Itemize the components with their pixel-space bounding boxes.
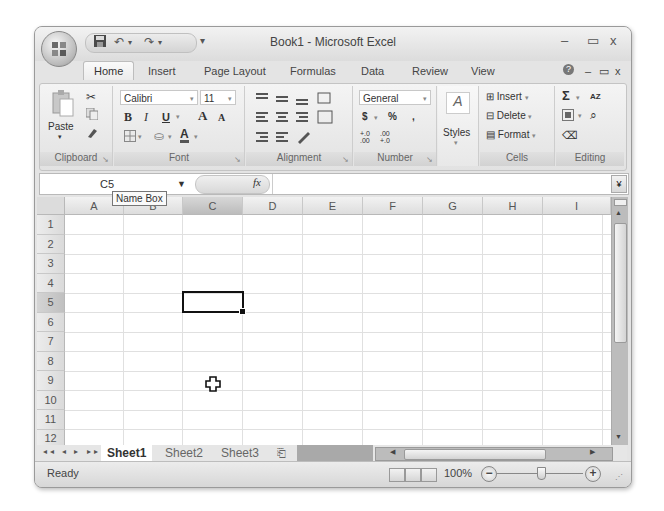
row-header-6[interactable]: 6 [37, 313, 65, 333]
borders-icon[interactable] [124, 130, 136, 146]
expand-formula-bar-button[interactable]: ¥ [611, 175, 627, 193]
fill-button[interactable] [562, 109, 574, 125]
row-header-3[interactable]: 3 [37, 254, 65, 274]
group-styles[interactable]: A Styles ▾ [438, 86, 479, 166]
number-format-select[interactable]: General▾ [359, 90, 431, 105]
row-header-9[interactable]: 9 [37, 371, 65, 391]
close-button[interactable]: x [610, 33, 617, 48]
currency-dropdown-icon[interactable]: ▾ [374, 111, 378, 125]
scroll-up-icon[interactable]: ▲ [615, 209, 622, 216]
select-all-button[interactable] [37, 197, 65, 215]
workbook-close-button[interactable]: x [615, 65, 621, 77]
tab-data[interactable]: Data [361, 65, 384, 77]
format-cells-button[interactable]: ▤ Format ▾ [486, 128, 536, 143]
normal-view-button[interactable] [389, 468, 405, 482]
delete-cells-button[interactable]: ⊟ Delete ▾ [486, 109, 532, 124]
vertical-scroll-thumb[interactable] [614, 223, 627, 343]
column-header-c[interactable]: C [183, 197, 243, 215]
shrink-font-button[interactable]: A [218, 111, 225, 125]
scroll-left-icon[interactable]: ◀ [390, 448, 395, 456]
maximize-button[interactable]: ▭ [587, 33, 599, 48]
format-painter-icon[interactable] [86, 126, 98, 142]
sheet-tab-sheet2[interactable]: Sheet2 [165, 445, 203, 461]
row-header-1[interactable]: 1 [37, 215, 65, 235]
zoom-out-button[interactable]: − [481, 466, 497, 482]
workbook-minimize-button[interactable]: – [585, 65, 591, 77]
resize-grip-icon[interactable]: ⋰ [615, 472, 623, 481]
insert-sheet-icon[interactable]: ⎗ [277, 445, 286, 461]
increase-decimal-button[interactable]: +.0 .00 [360, 130, 376, 144]
tab-home[interactable]: Home [83, 61, 134, 80]
fill-dropdown-icon[interactable]: ▾ [578, 109, 582, 123]
font-color-dropdown-icon[interactable]: ▾ [194, 130, 198, 144]
row-header-10[interactable]: 10 [37, 391, 65, 411]
split-box[interactable] [614, 199, 627, 206]
minimize-button[interactable]: – [561, 33, 568, 48]
office-button[interactable] [41, 31, 77, 67]
worksheet-grid[interactable]: A B C D E F G H I 1 2 3 4 5 6 7 8 9 10 1… [37, 197, 611, 445]
vertical-scrollbar[interactable]: ▲ ▼ [611, 197, 628, 445]
horizontal-scroll-thumb[interactable] [404, 449, 546, 460]
cut-icon[interactable]: ✂ [86, 90, 96, 104]
autosum-dropdown-icon[interactable]: ▾ [576, 91, 580, 105]
zoom-slider-thumb[interactable] [537, 467, 546, 480]
formula-input[interactable] [272, 174, 613, 194]
insert-cells-button[interactable]: ⊞ Insert ▾ [486, 90, 529, 105]
italic-button[interactable]: I [144, 110, 148, 124]
row-header-2[interactable]: 2 [37, 235, 65, 255]
workbook-restore-button[interactable]: ▭ [599, 65, 609, 78]
alignment-icons[interactable] [252, 90, 350, 146]
sheet-tab-sheet1[interactable]: Sheet1 [101, 445, 152, 461]
column-header-f[interactable]: F [363, 197, 423, 215]
currency-button[interactable]: $ [362, 110, 368, 124]
dialog-launcher-icon[interactable]: ↘ [342, 155, 349, 164]
sort-filter-button[interactable]: AZ [590, 90, 601, 104]
underline-button[interactable]: U [162, 110, 170, 124]
column-header-g[interactable]: G [423, 197, 483, 215]
sheet-navigation-buttons[interactable]: ◂◂ ◂ ▸ ▸▸ [43, 447, 101, 456]
row-header-8[interactable]: 8 [37, 352, 65, 372]
dialog-launcher-icon[interactable]: ↘ [102, 155, 109, 164]
paste-button[interactable]: Paste ▾ [48, 90, 78, 146]
bold-button[interactable]: B [124, 110, 132, 124]
font-name-select[interactable]: Calibri▾ [120, 90, 198, 105]
column-header-h[interactable]: H [483, 197, 543, 215]
page-break-preview-button[interactable] [421, 468, 437, 482]
zoom-in-button[interactable]: + [585, 466, 601, 482]
column-header-d[interactable]: D [243, 197, 303, 215]
autosum-button[interactable]: Σ [562, 89, 570, 103]
tab-page-layout[interactable]: Page Layout [204, 65, 266, 77]
tab-review[interactable]: Review [412, 65, 448, 77]
column-header-e[interactable]: E [303, 197, 363, 215]
sheet-tab-sheet3[interactable]: Sheet3 [221, 445, 259, 461]
help-icon[interactable]: ? [563, 64, 574, 75]
underline-dropdown-icon[interactable]: ▾ [176, 110, 180, 124]
selected-cell-c5[interactable] [182, 291, 244, 313]
comma-button[interactable]: , [412, 110, 415, 124]
insert-function-button[interactable]: fx [253, 176, 261, 188]
fill-color-icon[interactable]: ⛀ [154, 129, 164, 143]
name-box-dropdown-icon[interactable]: ▼ [177, 174, 186, 194]
font-size-select[interactable]: 11▾ [200, 90, 236, 105]
tab-view[interactable]: View [471, 65, 495, 77]
scroll-right-icon[interactable]: ▶ [590, 448, 595, 456]
zoom-level[interactable]: 100% [444, 467, 472, 479]
find-select-button[interactable]: ⌕ [590, 108, 597, 122]
clear-button[interactable]: ⌫ [562, 128, 578, 142]
horizontal-scrollbar[interactable]: ◀ ▶ [375, 447, 613, 461]
dialog-launcher-icon[interactable]: ↘ [234, 155, 241, 164]
scroll-down-icon[interactable]: ▼ [615, 433, 622, 440]
dialog-launcher-icon[interactable]: ↘ [426, 155, 433, 164]
row-header-7[interactable]: 7 [37, 332, 65, 352]
percent-button[interactable]: % [388, 110, 397, 124]
tab-formulas[interactable]: Formulas [290, 65, 336, 77]
decrease-decimal-button[interactable]: .00 +.0 [380, 130, 396, 144]
grow-font-button[interactable]: A [198, 109, 207, 123]
font-color-button[interactable]: A [180, 128, 189, 143]
fill-color-dropdown-icon[interactable]: ▾ [168, 130, 172, 144]
row-header-11[interactable]: 11 [37, 410, 65, 430]
row-header-4[interactable]: 4 [37, 274, 65, 294]
copy-icon[interactable] [86, 108, 98, 124]
tab-insert[interactable]: Insert [148, 65, 176, 77]
borders-dropdown-icon[interactable]: ▾ [138, 130, 142, 144]
